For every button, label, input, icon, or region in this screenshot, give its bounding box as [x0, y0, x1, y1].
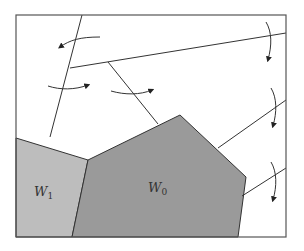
rotation-arrow-icon: [271, 162, 276, 200]
boundary-line: [242, 168, 286, 196]
rotation-arrow-icon: [60, 37, 100, 47]
rotation-arrow-icon: [48, 85, 88, 89]
voronoi-partition-diagram: W1 W0: [0, 0, 304, 251]
rotation-arrow-icon: [266, 22, 271, 60]
rotation-arrow-icon: [271, 88, 276, 126]
region-w0: [72, 115, 246, 237]
boundary-line: [108, 62, 158, 124]
boundary-line: [50, 15, 82, 137]
boundary-line: [70, 33, 286, 68]
